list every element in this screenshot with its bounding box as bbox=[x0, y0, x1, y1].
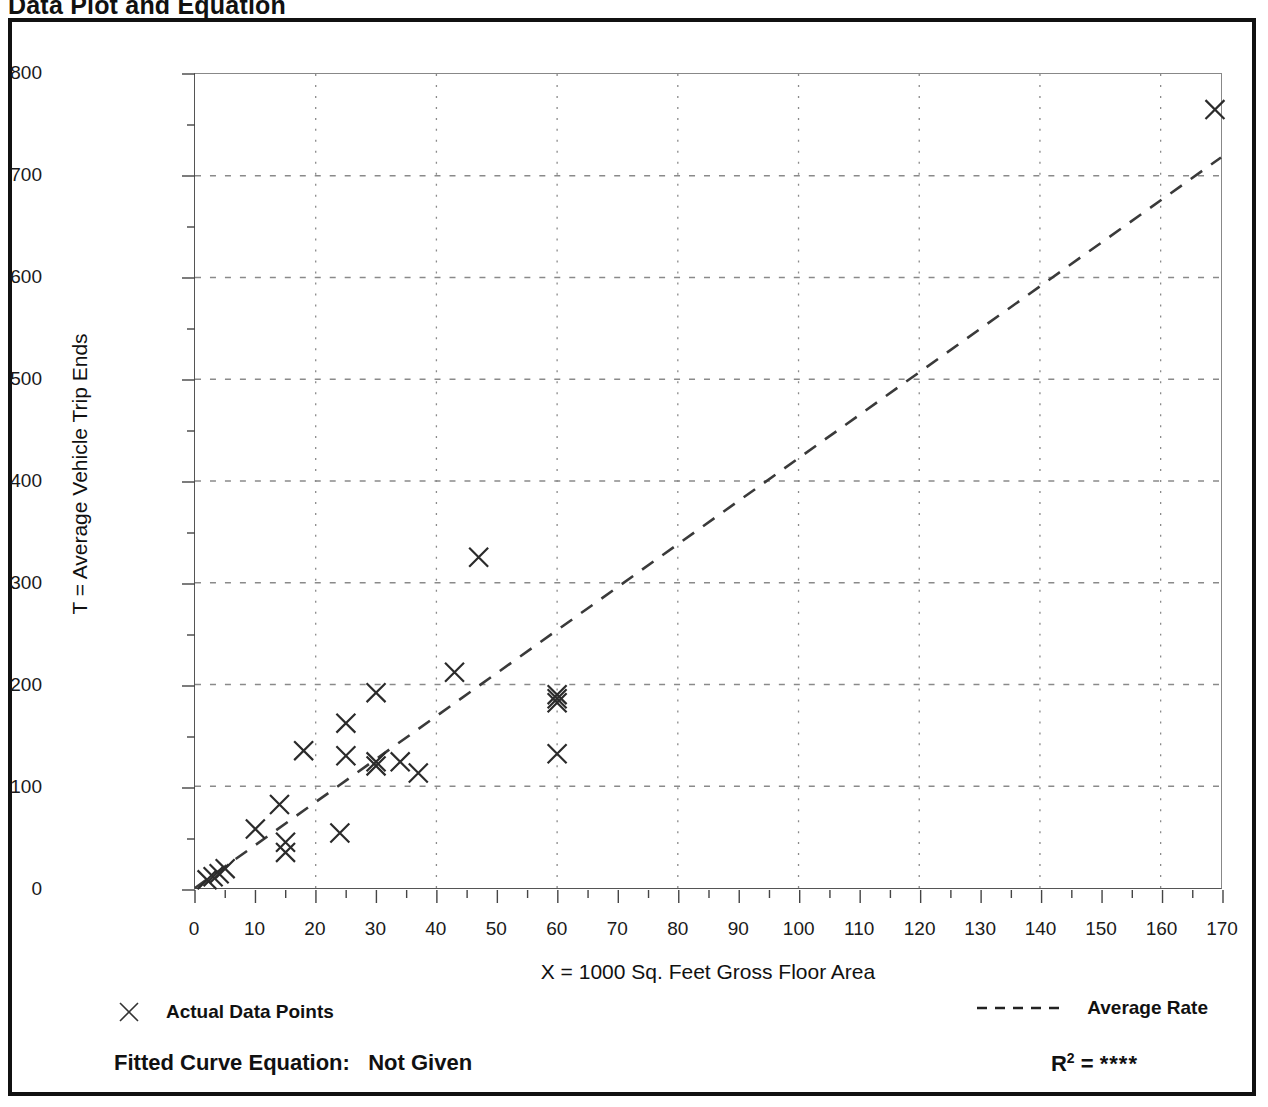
legend-label-points: Actual Data Points bbox=[166, 1001, 334, 1023]
x-tick-label: 170 bbox=[1206, 918, 1238, 940]
r2-exponent: 2 bbox=[1067, 1050, 1075, 1066]
x-tick-label: 20 bbox=[304, 918, 325, 940]
y-tick-label: 400 bbox=[10, 470, 42, 492]
r2-equals: = bbox=[1081, 1051, 1094, 1076]
r-squared-value: R2 = **** bbox=[1051, 1050, 1138, 1077]
plot-wrapper: 0100200300400500600700800 01020304050607… bbox=[12, 22, 1260, 1100]
x-tick-label: 120 bbox=[904, 918, 936, 940]
r2-stars: **** bbox=[1100, 1051, 1138, 1076]
x-tick-label: 90 bbox=[728, 918, 749, 940]
x-tick-label: 100 bbox=[783, 918, 815, 940]
y-tick-label: 300 bbox=[10, 572, 42, 594]
x-tick-label: 50 bbox=[486, 918, 507, 940]
footer: Fitted Curve Equation: Not Given R2 = **… bbox=[12, 1050, 1260, 1090]
x-tick-label: 10 bbox=[244, 918, 265, 940]
x-tick-label: 150 bbox=[1085, 918, 1117, 940]
legend-entry-line: Average Rate bbox=[975, 997, 1208, 1019]
x-tick-label: 160 bbox=[1146, 918, 1178, 940]
x-tick-label: 30 bbox=[365, 918, 386, 940]
x-axis-title: X = 1000 Sq. Feet Gross Floor Area bbox=[194, 960, 1222, 984]
y-axis-tick-labels: 0100200300400500600700800 bbox=[12, 73, 1260, 889]
r2-symbol: R bbox=[1051, 1051, 1067, 1076]
x-tick-label: 140 bbox=[1025, 918, 1057, 940]
equation-value: Not Given bbox=[368, 1050, 472, 1075]
y-tick-label: 0 bbox=[31, 878, 42, 900]
legend: Actual Data Points Average Rate bbox=[12, 997, 1260, 1041]
y-tick-label: 100 bbox=[10, 776, 42, 798]
legend-entry-points: Actual Data Points bbox=[114, 997, 334, 1027]
x-tick-label: 110 bbox=[844, 918, 874, 940]
equation-label: Fitted Curve Equation: bbox=[114, 1050, 350, 1075]
y-tick-label: 800 bbox=[10, 62, 42, 84]
legend-label-line: Average Rate bbox=[1087, 997, 1208, 1019]
x-marker-icon bbox=[114, 997, 144, 1027]
x-tick-label: 70 bbox=[607, 918, 628, 940]
x-axis-tick-labels: 0102030405060708090100110120130140150160… bbox=[194, 918, 1222, 948]
x-tick-label: 130 bbox=[964, 918, 996, 940]
page-title: Data Plot and Equation bbox=[8, 0, 286, 20]
x-tick-label: 0 bbox=[189, 918, 200, 940]
chart-frame: 0100200300400500600700800 01020304050607… bbox=[8, 18, 1256, 1096]
y-tick-label: 500 bbox=[10, 368, 42, 390]
x-tick-label: 40 bbox=[425, 918, 446, 940]
y-tick-label: 700 bbox=[10, 164, 42, 186]
fitted-curve-equation: Fitted Curve Equation: Not Given bbox=[114, 1050, 472, 1076]
x-tick-label: 80 bbox=[667, 918, 688, 940]
y-tick-label: 200 bbox=[10, 674, 42, 696]
y-axis-title: T = Average Vehicle Trip Ends bbox=[68, 144, 92, 804]
dashed-line-icon bbox=[975, 999, 1067, 1017]
x-tick-label: 60 bbox=[546, 918, 567, 940]
y-tick-label: 600 bbox=[10, 266, 42, 288]
